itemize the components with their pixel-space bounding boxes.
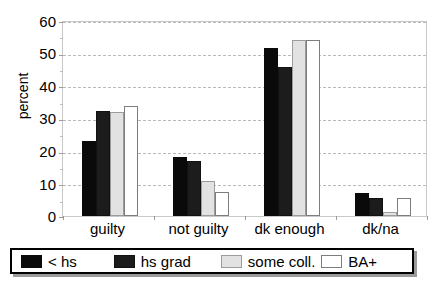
- bar-not-guilty-ba-plus[interactable]: [215, 192, 229, 216]
- legend-swatch-icon: [21, 255, 42, 268]
- x-tickmark: [427, 216, 428, 220]
- x-tick-label-dk-na: dk/na: [335, 220, 426, 237]
- bar-guilty-hs-grad[interactable]: [96, 111, 110, 217]
- bar-group-dk-na: [336, 22, 427, 216]
- bar-guilty-lt-hs[interactable]: [82, 141, 96, 216]
- bar-group-guilty: [63, 22, 154, 216]
- y-axis-tick-labels: 60 50 40 30 20 10 0: [28, 0, 56, 288]
- bar-dk-enough-lt-hs[interactable]: [264, 48, 278, 216]
- bar-guilty-some-coll[interactable]: [110, 112, 124, 216]
- y-tick-label: 40: [30, 79, 56, 94]
- bar-dk-na-some-coll[interactable]: [383, 212, 397, 216]
- x-tick-label-guilty: guilty: [62, 220, 153, 237]
- legend-swatch-icon: [321, 255, 342, 268]
- legend-label: < hs: [48, 254, 77, 269]
- y-tick-label: 50: [30, 46, 56, 61]
- bar-chart-figure: percent 60 50 40 30 20 10 0: [0, 0, 434, 288]
- legend-item-lt-hs[interactable]: < hs: [21, 254, 77, 269]
- bar-dk-enough-hs-grad[interactable]: [278, 67, 292, 216]
- bar-guilty-ba-plus[interactable]: [124, 106, 138, 216]
- y-tick-label: 30: [30, 111, 56, 126]
- legend-item-some-coll[interactable]: some coll.: [221, 254, 316, 269]
- y-tick-label: 60: [30, 14, 56, 29]
- legend-label: some coll.: [248, 254, 316, 269]
- bar-dk-na-lt-hs[interactable]: [355, 193, 369, 216]
- bar-dk-enough-ba-plus[interactable]: [306, 40, 320, 216]
- legend-swatch-icon: [114, 255, 135, 268]
- bar-group-dk-enough: [245, 22, 336, 216]
- bar-group-not-guilty: [154, 22, 245, 216]
- bar-dk-na-ba-plus[interactable]: [397, 198, 411, 216]
- legend-label: BA+: [348, 254, 377, 269]
- bar-dk-enough-some-coll[interactable]: [292, 40, 306, 216]
- legend-item-hs-grad[interactable]: hs grad: [114, 254, 191, 269]
- legend-label: hs grad: [141, 254, 191, 269]
- plot-area: [62, 21, 427, 217]
- x-tick-label-dk-enough: dk enough: [244, 220, 335, 237]
- bar-not-guilty-hs-grad[interactable]: [187, 161, 201, 216]
- y-tick-label: 10: [30, 177, 56, 192]
- y-tick-label: 0: [30, 209, 56, 224]
- bar-not-guilty-lt-hs[interactable]: [173, 157, 187, 217]
- legend-item-ba-plus[interactable]: BA+: [321, 254, 377, 269]
- x-tick-label-not-guilty: not guilty: [153, 220, 244, 237]
- bar-not-guilty-some-coll[interactable]: [201, 181, 215, 216]
- bar-dk-na-hs-grad[interactable]: [369, 198, 383, 216]
- y-tick-label: 20: [30, 144, 56, 159]
- legend-swatch-icon: [221, 255, 242, 268]
- chart-legend: < hs hs grad some coll. BA+: [10, 248, 414, 274]
